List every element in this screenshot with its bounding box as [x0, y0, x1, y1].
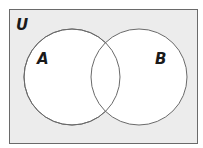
venn-diagram: U A B: [0, 0, 203, 148]
set-a-label: A: [36, 50, 49, 68]
set-b-label: B: [155, 50, 166, 68]
universe-label: U: [16, 16, 28, 34]
set-b-circle: [91, 29, 187, 125]
